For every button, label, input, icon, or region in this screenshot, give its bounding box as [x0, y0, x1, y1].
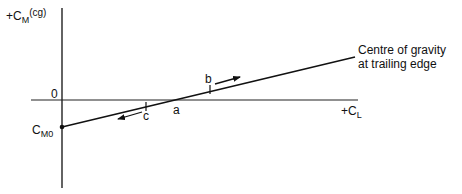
point-c-label: c	[143, 110, 149, 122]
origin-label: 0	[51, 88, 58, 100]
line-label-2: at trailing edge	[358, 58, 437, 70]
line-label-1: Centre of gravity	[358, 44, 446, 56]
x-axis-label-prefix: +C	[341, 104, 357, 118]
cm0-label-prefix: C	[32, 123, 41, 137]
point-b-label: b	[205, 73, 212, 85]
cm0-label: CM0	[32, 124, 53, 139]
cm0-point	[60, 125, 65, 130]
cm0-label-subscript: M0	[41, 129, 54, 139]
x-axis-label: +CL	[341, 105, 362, 120]
y-axis-label-prefix: +C	[6, 9, 22, 23]
arrow-b-icon	[215, 77, 240, 84]
cm-cl-diagram	[0, 0, 462, 194]
cm-line	[62, 57, 355, 127]
x-axis-label-subscript: L	[357, 110, 362, 120]
y-axis-label-suffix: (cg)	[29, 7, 46, 18]
y-axis-label: +CM(cg)	[6, 8, 46, 25]
point-a-label: a	[173, 104, 180, 116]
